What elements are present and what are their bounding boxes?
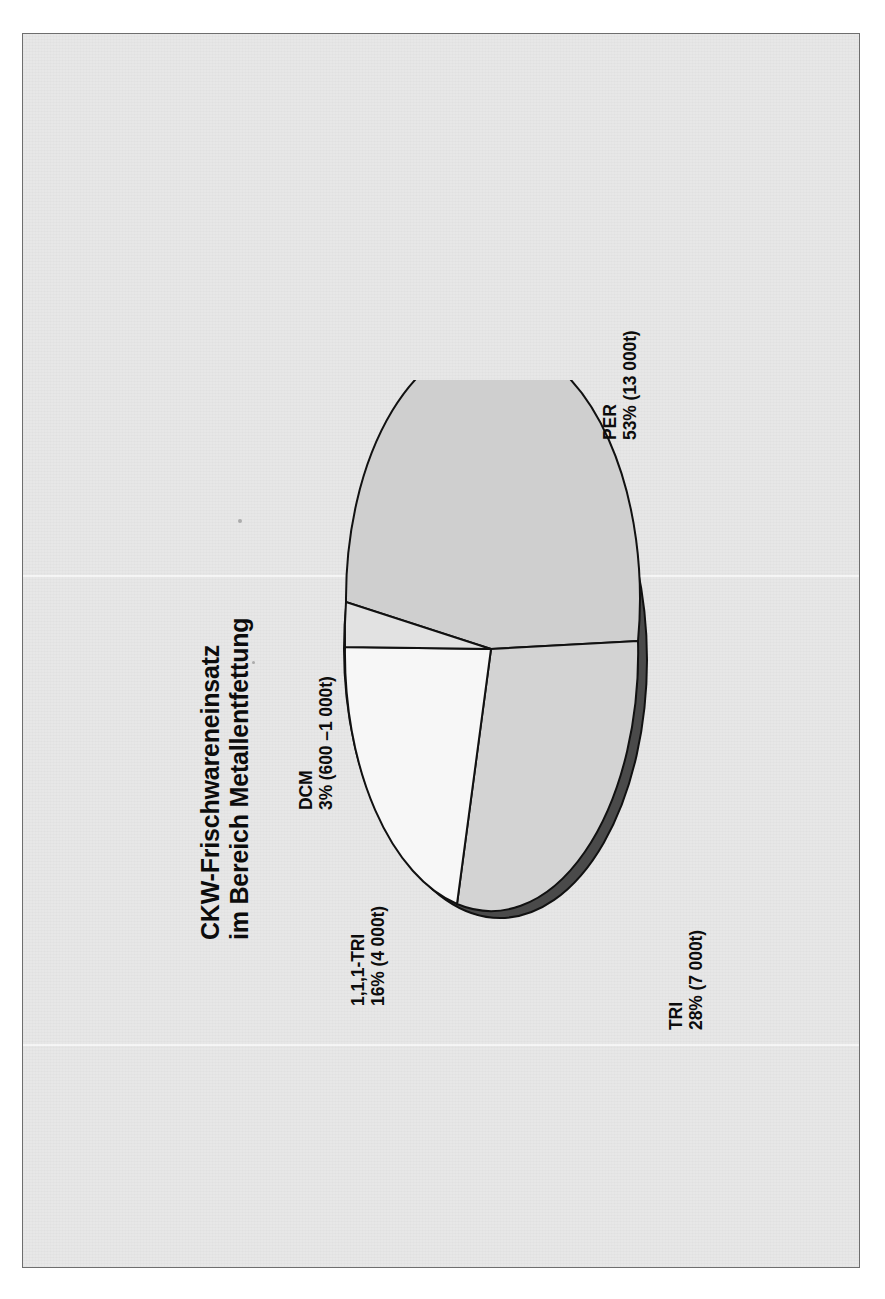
slice-label-dcm: DCM 3% (600 –1 000t) [296,676,337,810]
page-canvas: CKW-Frischwareneinsatz im Bereich Metall… [0,0,885,1299]
slice-label-tri111: 1,1,1-TRI 16% (4 000t) [348,906,389,1006]
slice-label-tri-name: TRI [666,930,686,1030]
slice-label-tri111-name: 1,1,1-TRI [348,906,368,1006]
slice-label-tri-value: 28% (7 000t) [686,930,706,1030]
chart-title: CKW-Frischwareneinsatz im Bereich Metall… [196,618,255,940]
slice-label-tri: TRI 28% (7 000t) [666,930,707,1030]
pie-chart-figure: CKW-Frischwareneinsatz im Bereich Metall… [0,0,885,1299]
chart-title-line-1: CKW-Frischwareneinsatz [196,618,225,940]
pie-slice-per [346,380,640,649]
slice-label-tri111-value: 16% (4 000t) [368,906,388,1006]
pie-chart-graphic [330,380,670,940]
slice-label-per-value: 53% (13 000t) [620,330,640,440]
chart-title-line-2: im Bereich Metallentfettung [225,618,254,940]
slice-label-dcm-name: DCM [296,676,316,810]
slice-label-per-name: PER [600,330,620,440]
slice-label-per: PER 53% (13 000t) [600,330,641,440]
slice-label-dcm-value: 3% (600 –1 000t) [316,676,336,810]
